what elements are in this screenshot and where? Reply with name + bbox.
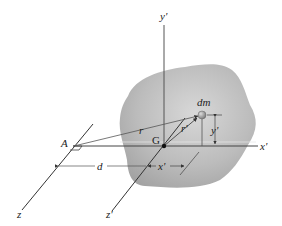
x-prime-axis-label: x' xyxy=(259,140,268,152)
point-g-label: G xyxy=(152,134,160,146)
vector-r-label: r xyxy=(139,124,144,136)
y-prime-axis-label: y' xyxy=(159,10,168,22)
z-prime-axis-label: z' xyxy=(105,208,113,220)
x-dim-label: x' xyxy=(157,160,166,172)
y-dim-label: y' xyxy=(210,124,219,136)
z-axis xyxy=(22,124,93,210)
distance-d-label: d xyxy=(97,160,103,172)
mass-element-label: dm xyxy=(197,96,211,108)
center-of-mass-point xyxy=(162,144,166,148)
z-axis-label: z xyxy=(16,208,22,220)
vector-r-prime-label: r' xyxy=(181,122,188,134)
parallel-axis-diagram: y' x' z z' A r r' G dm y' d x' xyxy=(0,0,282,226)
point-a-label: A xyxy=(60,137,68,149)
mass-element-dm xyxy=(198,111,206,119)
